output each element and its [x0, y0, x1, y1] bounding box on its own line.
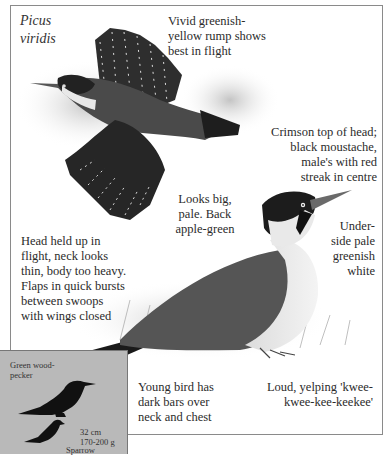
annotation-line: kwee-kee-keekee' [223, 395, 373, 410]
sparrow-silhouette-icon [24, 420, 65, 443]
species-genus: Picus [20, 12, 56, 30]
annotation-line: flight, neck looks [21, 249, 126, 264]
annotation-back: Looks big, pale. Back apple-green [170, 192, 240, 237]
annotation-line: Flaps in quick bursts [21, 279, 126, 294]
annotation-line: Under- [305, 219, 375, 234]
annotation-call: Loud, yelping 'kwee- kwee-kee-keekee' [223, 380, 373, 410]
annotation-line: with wings closed [21, 309, 126, 324]
species-name: Picus viridis [20, 12, 56, 48]
annotation-line: pale. Back [170, 207, 240, 222]
annotation-line: apple-green [170, 222, 240, 237]
annotation-young: Young bird has dark bars over neck and c… [138, 380, 214, 425]
annotation-line: Loud, yelping 'kwee- [223, 380, 373, 395]
annotation-line: between swoops [21, 294, 126, 309]
annotation-line: Crimson top of head; [227, 125, 377, 140]
annotation-line: black moustache, [227, 140, 377, 155]
annotation-line: neck and chest [138, 410, 214, 425]
annotation-rump: Vivid greenish- yellow rump shows best i… [168, 14, 266, 59]
annotation-flight: Head held up in flight, neck looks thin,… [21, 234, 126, 324]
inset-size-info: 32 cm 170-200 g [80, 427, 115, 447]
annotation-line: dark bars over [138, 395, 214, 410]
annotation-line: Looks big, [170, 192, 240, 207]
annotation-head: Crimson top of head; black moustache, ma… [227, 125, 377, 185]
inset-length: 32 cm [80, 427, 115, 437]
annotation-line: yellow rump shows [168, 29, 266, 44]
annotation-line: Young bird has [138, 380, 214, 395]
annotation-line: male's with red [227, 155, 377, 170]
size-comparison-inset: Green wood- pecker 32 cm 170-200 g Sparr… [0, 350, 128, 454]
annotation-line: white [305, 264, 375, 279]
annotation-line: greenish [305, 249, 375, 264]
annotation-line: streak in centre [227, 170, 377, 185]
annotation-line: Head held up in [21, 234, 126, 249]
species-epithet: viridis [20, 30, 56, 48]
annotation-underside: Under- side pale greenish white [305, 219, 375, 279]
annotation-line: thin, body too heavy. [21, 264, 126, 279]
annotation-line: best in flight [168, 44, 266, 59]
inset-sparrow-label: Sparrow [66, 445, 95, 455]
annotation-line: Vivid greenish- [168, 14, 266, 29]
woodpecker-silhouette-icon [18, 381, 96, 417]
annotation-line: side pale [305, 234, 375, 249]
